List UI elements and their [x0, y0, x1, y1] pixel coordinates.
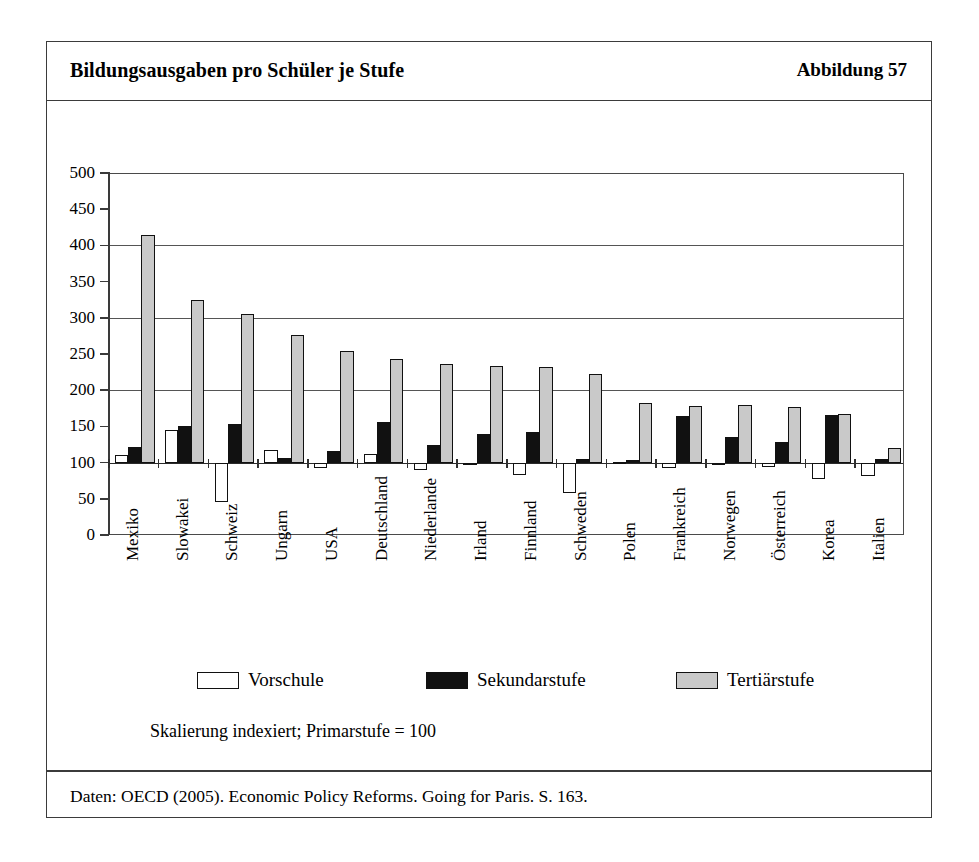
x-axis-label-finnland: Finnland [522, 501, 539, 561]
x-axis-label-österreich: Österreich [771, 490, 788, 561]
bar-schweden-tertiärstufe [589, 374, 602, 462]
bar-korea-vorschule [812, 463, 825, 480]
x-tick-11 [655, 459, 657, 468]
x-tick-4 [307, 459, 309, 468]
chart-legend: VorschuleSekundarstufeTertiärstufe [47, 669, 931, 699]
bar-norwegen-tertiärstufe [738, 405, 751, 463]
y-tick-label-0: 0 [87, 525, 96, 545]
x-axis-label-usa: USA [323, 527, 340, 561]
bar-frankreich-sekundarstufe [676, 416, 689, 462]
bar-slowakei-sekundarstufe [178, 426, 191, 462]
bar-deutschland-vorschule [364, 454, 377, 463]
x-tick-12 [705, 459, 707, 468]
bar-group-slowakei [165, 173, 205, 535]
y-tick-300 [100, 317, 109, 319]
bar-niederlande-tertiärstufe [440, 364, 453, 462]
bar-polen-vorschule [613, 462, 626, 464]
bar-korea-tertiärstufe [838, 414, 851, 463]
bar-norwegen-vorschule [712, 463, 725, 465]
y-tick-label-350: 350 [70, 272, 96, 292]
bar-group-usa [314, 173, 354, 535]
bar-österreich-sekundarstufe [775, 442, 788, 462]
bar-deutschland-tertiärstufe [390, 359, 403, 463]
bar-group-schweden [563, 173, 603, 535]
x-axis-label-slowakei: Slowakei [174, 498, 191, 561]
x-axis-label-deutschland: Deutschland [373, 476, 390, 561]
y-tick-label-500: 500 [70, 163, 96, 183]
x-axis-label-ungarn: Ungarn [273, 510, 290, 561]
y-tick-0 [100, 534, 109, 536]
plot-area: 050100150200250300350400450500 [108, 173, 904, 535]
figure-number-label: Abbildung 57 [797, 59, 907, 81]
y-tick-label-450: 450 [70, 199, 96, 219]
legend-swatch-sekundar [426, 672, 468, 689]
x-tick-1 [158, 459, 160, 468]
source-note: Daten: OECD (2005). Economic Policy Refo… [70, 786, 588, 807]
x-tick-2 [208, 459, 210, 468]
legend-label-sekundar: Sekundarstufe [477, 669, 586, 691]
bar-finnland-tertiärstufe [539, 367, 552, 463]
bar-mexiko-vorschule [115, 455, 128, 462]
x-axis-label-niederlande: Niederlande [422, 478, 439, 561]
bar-polen-tertiärstufe [639, 403, 652, 463]
bar-italien-vorschule [861, 463, 874, 476]
bar-mexiko-tertiärstufe [141, 235, 154, 463]
bar-usa-vorschule [314, 463, 327, 469]
scale-note: Skalierung indexiert; Primarstufe = 100 [150, 721, 436, 742]
y-tick-label-300: 300 [70, 308, 96, 328]
bar-schweiz-sekundarstufe [228, 424, 241, 462]
bar-group-schweiz [215, 173, 255, 535]
legend-entry-vorschule[interactable]: Vorschule [197, 669, 324, 691]
bar-group-mexiko [115, 173, 155, 535]
x-axis-label-schweiz: Schweiz [223, 503, 240, 561]
bar-finnland-vorschule [513, 463, 526, 475]
figure-frame: Bildungsausgaben pro Schüler je Stufe Ab… [46, 41, 932, 818]
x-tick-15 [854, 459, 856, 468]
bar-schweden-sekundarstufe [576, 459, 589, 463]
bar-group-italien [861, 173, 901, 535]
legend-entry-sekundar[interactable]: Sekundarstufe [426, 669, 586, 691]
bar-irland-sekundarstufe [477, 434, 490, 463]
y-tick-350 [100, 281, 109, 283]
legend-entry-tertiaer[interactable]: Tertiärstufe [676, 669, 814, 691]
x-axis-label-irland: Irland [472, 520, 489, 561]
y-tick-250 [100, 353, 109, 355]
bar-usa-sekundarstufe [327, 451, 340, 463]
bar-finnland-sekundarstufe [526, 432, 539, 462]
bar-polen-sekundarstufe [626, 460, 639, 462]
bar-schweden-vorschule [563, 463, 576, 493]
x-tick-6 [407, 459, 409, 468]
bar-österreich-vorschule [762, 463, 775, 467]
bar-group-ungarn [264, 173, 304, 535]
bar-group-frankreich [662, 173, 702, 535]
x-tick-3 [257, 459, 259, 468]
x-axis-label-korea: Korea [820, 519, 837, 561]
bar-group-österreich [762, 173, 802, 535]
x-tick-8 [506, 459, 508, 468]
bar-irland-vorschule [463, 463, 476, 465]
bar-korea-sekundarstufe [825, 415, 838, 463]
y-tick-label-400: 400 [70, 235, 96, 255]
bar-niederlande-vorschule [414, 463, 427, 470]
bar-italien-sekundarstufe [875, 459, 888, 463]
bar-ungarn-vorschule [264, 450, 277, 462]
bar-mexiko-sekundarstufe [128, 447, 141, 463]
x-axis-label-schweden: Schweden [572, 491, 589, 561]
bar-group-norwegen [712, 173, 752, 535]
legend-label-vorschule: Vorschule [248, 669, 324, 691]
y-tick-150 [100, 426, 109, 428]
source-divider [47, 770, 931, 772]
bar-slowakei-tertiärstufe [191, 300, 204, 463]
y-tick-label-150: 150 [70, 416, 96, 436]
x-axis-label-polen: Polen [621, 522, 638, 561]
bar-group-polen [613, 173, 653, 535]
bar-irland-tertiärstufe [490, 366, 503, 463]
y-tick-label-200: 200 [70, 380, 96, 400]
x-tick-0 [108, 459, 110, 468]
y-tick-50 [100, 498, 109, 500]
bar-group-korea [812, 173, 852, 535]
x-axis-label-mexiko: Mexiko [124, 508, 141, 561]
bar-schweiz-vorschule [215, 463, 228, 503]
y-tick-500 [100, 172, 109, 174]
x-tick-9 [556, 459, 558, 468]
